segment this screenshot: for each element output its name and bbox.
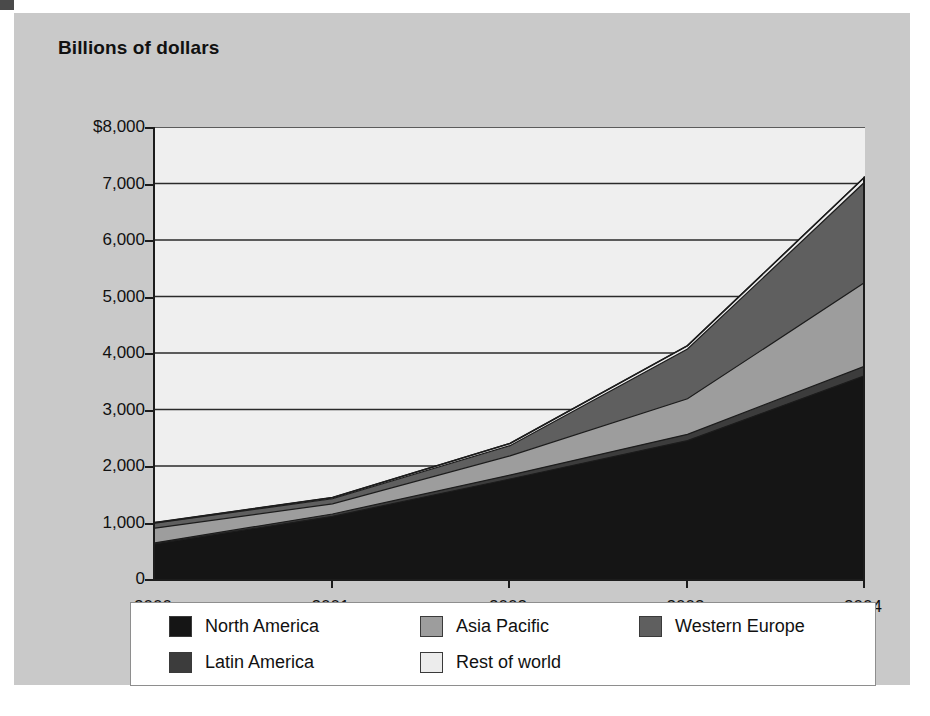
plot-area	[153, 127, 865, 581]
y-axis-labels: $8,0007,0006,0005,0004,0003,0002,0001,00…	[57, 113, 145, 593]
legend-item-label: Latin America	[205, 652, 314, 673]
legend-item-label: North America	[205, 616, 319, 637]
x-axis-tick-mark	[331, 579, 333, 588]
chart-legend: North AmericaAsia PacificWestern EuropeL…	[130, 602, 876, 686]
y-axis-tick-label: 5,000	[102, 287, 145, 307]
legend-item-label: Western Europe	[675, 616, 805, 637]
y-axis-tick-label: 2,000	[102, 456, 145, 476]
y-axis-tick-label: 1,000	[102, 513, 145, 533]
legend-swatch-icon	[169, 616, 192, 637]
y-axis-tick-label: $8,000	[93, 117, 145, 137]
y-axis-tick-label: 3,000	[102, 400, 145, 420]
x-axis-tick-mark	[508, 579, 510, 588]
y-axis-tick-label: 6,000	[102, 230, 145, 250]
scan-edge-mark	[0, 0, 14, 10]
y-axis-tick-label: 0	[136, 569, 145, 589]
legend-item-rest-of-world[interactable]: Rest of world	[420, 645, 561, 679]
legend-row: Latin AmericaRest of world	[131, 645, 875, 679]
legend-item-label: Rest of world	[456, 652, 561, 673]
chart-container: $8,0007,0006,0005,0004,0003,0002,0001,00…	[34, 31, 890, 667]
stacked-area-plot	[155, 127, 865, 579]
legend-item-north-america[interactable]: North America	[169, 609, 319, 643]
legend-swatch-icon	[420, 652, 443, 673]
legend-swatch-icon	[169, 652, 192, 673]
legend-item-western-europe[interactable]: Western Europe	[639, 609, 805, 643]
x-axis-tick-mark	[863, 579, 865, 588]
legend-swatch-icon	[639, 616, 662, 637]
legend-swatch-icon	[420, 616, 443, 637]
legend-item-label: Asia Pacific	[456, 616, 549, 637]
legend-item-latin-america[interactable]: Latin America	[169, 645, 314, 679]
y-axis-tick-label: 7,000	[102, 174, 145, 194]
y-axis-tick-label: 4,000	[102, 343, 145, 363]
x-axis-tick-mark	[686, 579, 688, 588]
plot-wrapper: $8,0007,0006,0005,0004,0003,0002,0001,00…	[153, 113, 875, 583]
figure-frame: Billions of dollars $8,0007,0006,0005,00…	[14, 13, 910, 685]
legend-item-asia-pacific[interactable]: Asia Pacific	[420, 609, 549, 643]
legend-row: North AmericaAsia PacificWestern Europe	[131, 609, 875, 643]
